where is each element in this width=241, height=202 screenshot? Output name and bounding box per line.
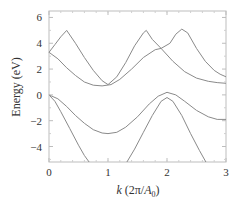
band-lower-c-line [49,92,226,133]
y-tick-label: 4 [37,37,43,49]
band-lower-d-left-line [49,95,89,162]
y-tick-label: −2 [30,115,42,127]
band-upper-a-line [49,30,226,84]
x-label-close: ) [156,183,160,197]
series-layer [49,29,226,162]
x-tick-labels: 0123 [46,166,229,178]
y-axis-label: Energy (eV) [9,57,23,116]
x-tick-label: 3 [223,166,229,178]
x-tick-label: 0 [46,166,52,178]
y-tick-label: −4 [30,141,42,153]
y-tick-labels: −4−20246 [30,11,42,152]
band-lower-d-right-line [127,98,206,163]
x-label-rest: (2π/ [122,183,145,197]
x-axis-label: k (2π/A0) [116,183,159,199]
band-upper-b-line [49,29,226,86]
x-tick-label: 1 [105,166,111,178]
x-tick-label: 2 [164,166,170,178]
y-tick-label: 2 [37,63,43,75]
band-structure-chart: 0123 −4−20246 Energy (eV) k (2π/A0) [0,0,241,202]
y-tick-label: 6 [37,11,43,23]
y-tick-label: 0 [37,89,43,101]
